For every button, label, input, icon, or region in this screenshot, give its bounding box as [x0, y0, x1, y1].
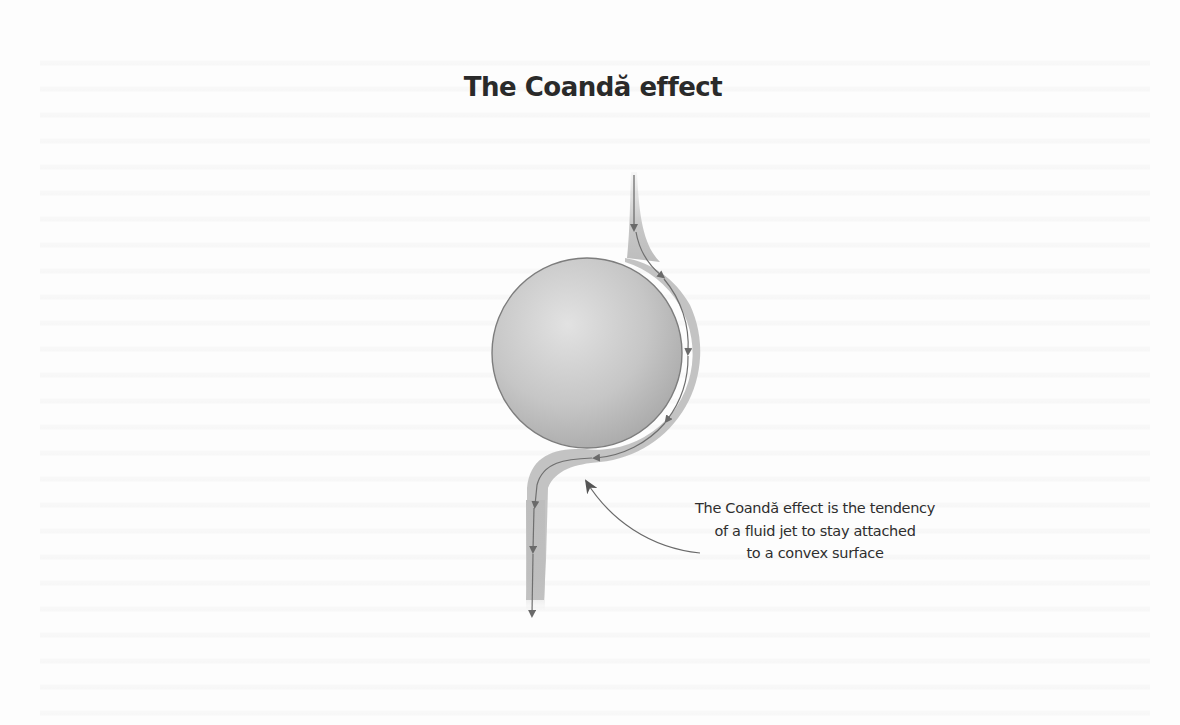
figure-caption: The Coandă effect is the tendency of a f… [650, 497, 980, 565]
outgoing-jet [526, 500, 545, 610]
convex-cylinder [492, 258, 682, 448]
incoming-jet [627, 172, 660, 262]
caption-line-3: to a convex surface [650, 542, 980, 565]
caption-line-2: of a fluid jet to stay attached [650, 520, 980, 543]
coanda-diagram [0, 0, 1180, 725]
diagram-page: The Coandă effect [0, 0, 1180, 725]
caption-line-1: The Coandă effect is the tendency [650, 497, 980, 520]
